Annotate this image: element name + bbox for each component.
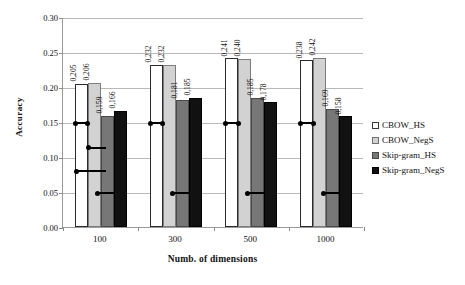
gridline [63, 53, 363, 54]
legend-item[interactable]: CBOW_HS [372, 118, 464, 133]
y-axis-tick-label: 0.10 [28, 154, 58, 163]
bar: 0,169 [326, 109, 339, 227]
bar-value-label: 0,178 [260, 83, 268, 100]
bar: 0,205 [75, 84, 88, 228]
bar-value-label: 0,166 [110, 92, 118, 109]
legend-item-label: Skip-gram_HS [382, 151, 436, 160]
y-axis-tick [59, 88, 63, 89]
y-axis-tick-labels: 0.000.050.100.150.200.250.30 [24, 0, 58, 285]
annotation-line [76, 170, 106, 172]
legend-swatch-icon [372, 137, 379, 144]
bar-chart: Accuracy 0.000.050.100.150.200.250.30 0,… [0, 0, 465, 285]
annotation-dot [298, 121, 303, 126]
annotation-dot [236, 121, 241, 126]
bar: 0,238 [300, 60, 313, 227]
x-axis-tick [364, 227, 365, 231]
annotation-dot [321, 191, 326, 196]
bar-value-label: 0,206 [84, 64, 92, 81]
bar: 0,185 [189, 98, 202, 228]
annotation-dot [85, 121, 90, 126]
y-axis-tick-label: 0.15 [28, 119, 58, 128]
plot-area: 0,2050,2060,1590,1660,2320,2320,1810,185… [62, 18, 363, 228]
legend-item-label: CBOW_NegS [382, 136, 434, 145]
bar-value-label: 0,185 [247, 78, 255, 95]
x-axis-tick [63, 227, 64, 231]
annotation-dot [95, 191, 100, 196]
legend-item[interactable]: CBOW_NegS [372, 133, 464, 148]
chart-legend: CBOW_HSCBOW_NegSSkip-gram_HSSkip-gram_Ne… [372, 118, 464, 178]
x-axis-tick-label: 300 [168, 234, 182, 244]
annotation-dot [148, 121, 153, 126]
y-axis-title: Accuracy [14, 72, 24, 162]
legend-item-label: Skip-gram_NegS [382, 166, 445, 175]
bar-value-label: 0,232 [159, 46, 167, 63]
y-axis-tick-label: 0.05 [28, 189, 58, 198]
bar-value-label: 0,158 [335, 97, 343, 114]
bar-value-label: 0,185 [185, 78, 193, 95]
legend-item-label: CBOW_HS [382, 121, 425, 130]
x-axis-tick-label: 100 [93, 234, 107, 244]
x-axis-tick [214, 227, 215, 231]
bar: 0,232 [150, 65, 163, 227]
bar-value-label: 0,232 [146, 46, 154, 63]
legend-swatch-icon [372, 152, 379, 159]
legend-item[interactable]: Skip-gram_HS [372, 148, 464, 163]
bar-value-label: 0,169 [322, 90, 330, 107]
annotation-dot [170, 191, 175, 196]
y-axis-tick [59, 53, 63, 54]
bar-value-label: 0,205 [71, 64, 79, 81]
bar-value-label: 0,242 [309, 39, 317, 56]
bar: 0,178 [264, 102, 277, 227]
annotation-dot [311, 121, 316, 126]
bar: 0,241 [225, 58, 238, 227]
bar: 0,158 [339, 116, 352, 227]
legend-swatch-icon [372, 167, 379, 174]
legend-swatch-icon [372, 122, 379, 129]
x-axis-tick [138, 227, 139, 231]
legend-item[interactable]: Skip-gram_NegS [372, 163, 464, 178]
bar-value-label: 0,181 [172, 81, 180, 98]
annotation-dot [223, 121, 228, 126]
y-axis-tick-label: 0.00 [28, 224, 58, 233]
annotation-dot [74, 169, 79, 174]
bar-value-label: 0,238 [296, 41, 304, 58]
x-axis-tick [289, 227, 290, 231]
bar-value-label: 0,241 [221, 39, 229, 56]
annotation-dot [73, 121, 78, 126]
bar-value-label: 0,240 [234, 40, 242, 57]
bar: 0,185 [251, 98, 264, 228]
y-axis-tick-label: 0.30 [28, 14, 58, 23]
y-axis-tick [59, 158, 63, 159]
bar: 0,166 [114, 111, 127, 227]
y-axis-tick-label: 0.20 [28, 84, 58, 93]
bar: 0,181 [176, 100, 189, 227]
bar-value-label: 0,159 [97, 97, 105, 114]
annotation-dot [160, 121, 165, 126]
gridline [63, 18, 363, 19]
x-axis-title: Numb. of dimensions [62, 254, 363, 264]
x-axis-tick-label: 1000 [316, 234, 334, 244]
y-axis-tick-label: 0.25 [28, 49, 58, 58]
x-axis-tick-label: 500 [243, 234, 257, 244]
y-axis-tick [59, 123, 63, 124]
y-axis-tick [59, 18, 63, 19]
y-axis-tick [59, 193, 63, 194]
bar: 0,242 [313, 58, 326, 227]
